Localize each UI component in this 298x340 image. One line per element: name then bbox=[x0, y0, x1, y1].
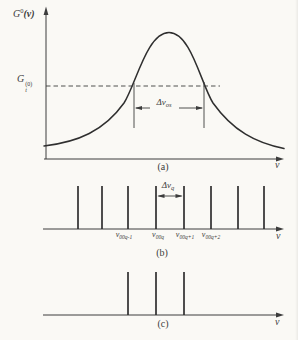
mode-label-q-minus-1: ν00q-1 bbox=[116, 231, 132, 241]
mode-label-q-plus-1: ν00q+1 bbox=[176, 231, 194, 241]
x-axis-label-b: ν bbox=[276, 231, 280, 241]
threshold-label-base: G bbox=[17, 73, 24, 84]
x-axis-label-a: ν bbox=[275, 160, 279, 170]
y-axis-label-arg: (ν) bbox=[23, 8, 34, 19]
bandwidth-label-base: Δν bbox=[156, 97, 165, 107]
y-axis-label: G0(ν) bbox=[13, 6, 35, 19]
figure-canvas bbox=[0, 0, 298, 340]
mode-lines-c bbox=[128, 272, 184, 315]
textbook-figure-laser-modes: G0(ν) G(0)t Δνos ν (a) Δνq ν00q-1 ν00q ν… bbox=[0, 0, 298, 340]
caption-c: (c) bbox=[157, 319, 168, 329]
bandwidth-label: Δνos bbox=[156, 98, 171, 109]
threshold-label-sub: t bbox=[25, 87, 32, 93]
bandwidth-label-sub: os bbox=[166, 101, 172, 108]
panel-a-gain-curve bbox=[44, 7, 284, 162]
mode-spacing-label-base: Δν bbox=[162, 180, 171, 190]
threshold-label: G(0)t bbox=[17, 74, 32, 93]
bandwidth-left-arrowhead bbox=[135, 106, 142, 110]
mode-spacing-label: Δνq bbox=[162, 181, 175, 192]
spacing-right-arrowhead bbox=[176, 194, 183, 198]
caption-a: (a) bbox=[157, 162, 168, 172]
mode-label-q-plus-2: ν00q+2 bbox=[202, 231, 220, 241]
y-axis-arrowhead bbox=[44, 7, 49, 16]
panel-c-oscillating-modes bbox=[43, 272, 284, 317]
mode-label-q: ν00q bbox=[152, 231, 164, 241]
mode-spacing-label-sub: q bbox=[171, 184, 174, 191]
spacing-left-arrowhead bbox=[157, 194, 164, 198]
bandwidth-right-arrowhead bbox=[196, 106, 203, 110]
gain-curve bbox=[44, 33, 284, 149]
mode-lines-b bbox=[78, 186, 264, 229]
panel-b-mode-comb bbox=[43, 186, 284, 231]
x-axis-label-c: ν bbox=[275, 317, 279, 327]
caption-b: (b) bbox=[156, 248, 168, 258]
